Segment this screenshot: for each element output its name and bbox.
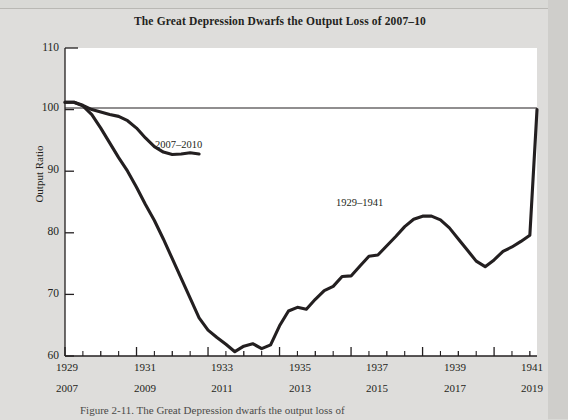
x-tick-label-bottom-2009: 2009: [122, 382, 168, 394]
x-tick-label-bottom-2007: 2007: [44, 382, 90, 394]
series-annotation-1929-1941: 1929–1941: [336, 197, 383, 208]
y-tick-label-80: 80: [31, 225, 59, 237]
axis-spines: [65, 48, 537, 356]
y-tick-label-60: 60: [31, 349, 59, 361]
x-tick-label-top-1937: 1937: [354, 361, 400, 373]
x-tick-label-bottom-2017: 2017: [432, 382, 478, 394]
x-tick-label-bottom-2019: 2019: [509, 382, 555, 394]
x-tick-label-top-1941: 1941: [509, 361, 555, 373]
figure-caption: Figure 2-11. The Great Depression dwarfs…: [80, 404, 520, 416]
x-tick-label-bottom-2015: 2015: [354, 382, 400, 394]
y-axis-ticks: [65, 110, 74, 356]
data-series-group: [65, 102, 537, 351]
x-tick-label-bottom-2011: 2011: [199, 382, 245, 394]
y-tick-label-70: 70: [31, 287, 59, 299]
x-tick-label-top-1939: 1939: [432, 361, 478, 373]
x-tick-label-top-1931: 1931: [122, 361, 168, 373]
series-annotation-2007-2010: 2007–2010: [155, 139, 202, 150]
x-tick-label-top-1933: 1933: [199, 361, 245, 373]
x-tick-label-top-1935: 1935: [277, 361, 323, 373]
y-tick-label-100: 100: [31, 101, 59, 113]
x-tick-label-top-1929: 1929: [44, 361, 90, 373]
y-tick-label-90: 90: [31, 163, 59, 175]
series-line-1929-1941: [65, 102, 537, 351]
x-tick-label-bottom-2013: 2013: [277, 382, 323, 394]
y-tick-label-110: 110: [31, 41, 59, 53]
x-axis-ticks: [65, 347, 530, 356]
